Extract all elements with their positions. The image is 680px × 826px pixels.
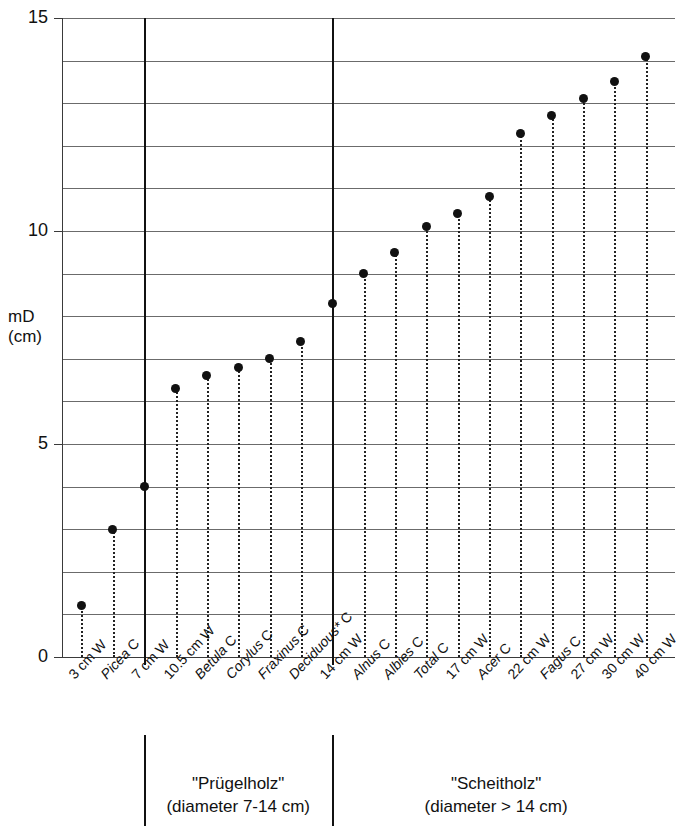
- data-point[interactable]: [296, 337, 305, 346]
- data-point[interactable]: [641, 52, 650, 61]
- data-point[interactable]: [422, 222, 431, 231]
- group-detail: (diameter 7-14 cm): [108, 795, 368, 818]
- data-point-stem: [489, 197, 491, 657]
- y-axis-title: mD (cm): [8, 307, 42, 347]
- data-point-stem: [113, 529, 115, 657]
- y-axis-tick-label: 5: [38, 434, 48, 452]
- data-point-stem: [646, 56, 648, 657]
- data-point-stem: [583, 99, 585, 657]
- group-caption: "Prügelholz"(diameter 7-14 cm): [108, 772, 368, 818]
- y-axis-line: [62, 18, 63, 657]
- data-point[interactable]: [359, 269, 368, 278]
- data-point[interactable]: [108, 525, 117, 534]
- plot-area: [62, 18, 675, 657]
- y-axis-tick-label: 10: [28, 221, 48, 239]
- data-point-stem: [176, 389, 178, 657]
- y-axis-tick-label: 0: [38, 647, 48, 665]
- gridline: [62, 61, 675, 62]
- data-point[interactable]: [390, 248, 399, 257]
- group-name: "Prügelholz": [108, 772, 368, 795]
- data-point[interactable]: [234, 363, 243, 372]
- data-point-stem: [458, 214, 460, 657]
- data-point[interactable]: [77, 601, 86, 610]
- data-point-stem: [426, 227, 428, 657]
- data-point-stem: [364, 274, 366, 657]
- data-point-stem: [207, 376, 209, 657]
- y-axis-tick-label: 15: [28, 8, 48, 26]
- data-point-stem: [238, 367, 240, 657]
- data-point-stem: [552, 116, 554, 657]
- y-axis-tick: [54, 18, 63, 19]
- data-point[interactable]: [579, 94, 588, 103]
- data-point[interactable]: [610, 77, 619, 86]
- group-separator-line: [332, 18, 334, 665]
- data-point-stem: [81, 606, 83, 657]
- group-detail: (diameter > 14 cm): [366, 795, 626, 818]
- data-point-stem: [614, 82, 616, 657]
- y-axis-tick: [54, 657, 63, 658]
- data-point[interactable]: [202, 371, 211, 380]
- data-point[interactable]: [547, 111, 556, 120]
- y-axis-tick: [54, 231, 63, 232]
- data-point-stem: [301, 342, 303, 657]
- group-separator-line: [144, 18, 146, 665]
- data-point[interactable]: [265, 354, 274, 363]
- data-point[interactable]: [453, 209, 462, 218]
- group-name: "Scheitholz": [366, 772, 626, 795]
- group-caption: "Scheitholz"(diameter > 14 cm): [366, 772, 626, 818]
- data-point-stem: [395, 252, 397, 657]
- y-axis-title-line-1: mD: [8, 307, 42, 327]
- gridline: [62, 18, 675, 19]
- data-point[interactable]: [485, 192, 494, 201]
- data-point-stem: [520, 133, 522, 657]
- y-axis-title-line-2: (cm): [8, 327, 42, 347]
- y-axis-tick: [54, 444, 63, 445]
- data-point-stem: [270, 359, 272, 657]
- data-point[interactable]: [171, 384, 180, 393]
- data-point[interactable]: [516, 129, 525, 138]
